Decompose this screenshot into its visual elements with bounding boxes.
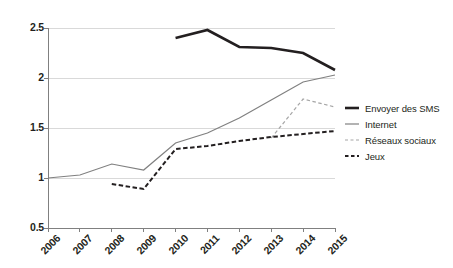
legend-line-swatch-icon [345,103,360,113]
plot-canvas [48,28,335,228]
line-chart: 0.511.522.5 2006200720082009201020112012… [0,0,453,268]
legend-item-label: Réseaux sociaux [365,135,436,146]
series-line [48,75,335,178]
y-axis-tick-label: 2 [2,72,44,83]
series-line [176,30,335,70]
y-axis-tick-label: 2.5 [2,22,44,33]
legend-line-swatch-icon [345,119,360,129]
y-axis-tick-label: 0.5 [2,222,44,233]
legend-item-label: Envoyer des SMS [365,103,440,114]
y-axis: 0.511.522.5 [0,0,44,268]
series-lines [48,30,335,189]
series-line [112,131,335,189]
legend-item[interactable]: Jeux [345,148,453,164]
legend-item[interactable]: Internet [345,116,453,132]
x-axis: 2006200720082009201020112012201320142015 [48,232,348,268]
legend-line-swatch-icon [345,135,360,145]
y-axis-tick-label: 1.5 [2,122,44,133]
legend-item-label: Internet [365,119,396,130]
legend-item-label: Jeux [365,151,385,162]
y-axis-tick-label: 1 [2,172,44,183]
legend-line-swatch-icon [345,151,360,161]
gridlines [48,28,335,228]
plot-area [48,28,335,228]
legend: Envoyer des SMSInternetRéseaux sociauxJe… [345,100,453,164]
axis-lines [44,28,335,232]
legend-item[interactable]: Envoyer des SMS [345,100,453,116]
legend-item[interactable]: Réseaux sociaux [345,132,453,148]
